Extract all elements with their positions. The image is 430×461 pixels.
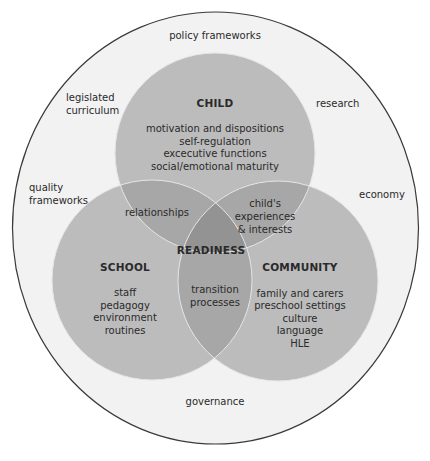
- readiness-center-label: READINESS: [177, 244, 245, 256]
- context-left-line-2: frameworks: [29, 195, 88, 206]
- context-left-line-1: quality: [29, 182, 63, 193]
- school-community-overlap-line-1: transition: [191, 284, 239, 295]
- community-item: language: [277, 325, 324, 336]
- community-item: preschool settings: [254, 300, 346, 311]
- child-community-overlap-line-2: experiences: [235, 211, 296, 222]
- child-heading: CHILD: [197, 97, 234, 109]
- school-heading: SCHOOL: [100, 261, 150, 273]
- school-community-overlap-line-2: processes: [190, 297, 240, 308]
- school-item: staff: [114, 287, 137, 298]
- readiness-venn-diagram: policy frameworks legislated curriculum …: [0, 0, 430, 461]
- context-right-label: economy: [359, 189, 405, 200]
- community-heading: COMMUNITY: [262, 261, 338, 273]
- school-item: routines: [105, 325, 146, 336]
- child-item: self-regulation: [179, 136, 251, 147]
- child-community-overlap-line-1: child's: [249, 198, 281, 209]
- child-item: excecutive functions: [163, 148, 266, 159]
- child-item: motivation and dispositions: [146, 123, 284, 134]
- context-upper-right-label: research: [316, 98, 359, 109]
- community-item: family and carers: [256, 288, 343, 299]
- context-upper-left-line-1: legislated: [66, 92, 115, 103]
- context-upper-left-line-2: curriculum: [66, 105, 119, 116]
- child-community-overlap-line-3: & interests: [238, 224, 293, 235]
- school-item: environment: [93, 312, 157, 323]
- community-item: culture: [283, 313, 318, 324]
- child-item: social/emotional maturity: [151, 161, 279, 172]
- context-top-label: policy frameworks: [169, 30, 261, 41]
- context-bottom-label: governance: [186, 396, 245, 407]
- child-school-overlap-label: relationships: [125, 207, 189, 218]
- community-item: HLE: [290, 338, 309, 349]
- school-item: pedagogy: [100, 300, 150, 311]
